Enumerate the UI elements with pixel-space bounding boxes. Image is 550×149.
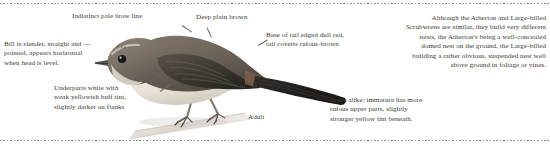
field-guide-plate: Indistinct pale brow line Bill is slende… [0, 0, 550, 149]
top-dotted-rule [0, 3, 550, 4]
annotation-underparts: Underparts white with weak yellowish buf… [54, 84, 170, 112]
annotation-nest-comparison: Although the Atherton and Large-billed S… [386, 14, 546, 70]
annotation-brow: Indistinct pale brow line [72, 12, 192, 21]
annotation-back: Deep plain brown [196, 13, 286, 22]
annotation-tail: Base of tail edged dull red, tail covert… [266, 31, 384, 50]
label-adult: Adult [248, 113, 288, 122]
annotation-sexes: Sexes alike; immature has more rufous up… [330, 96, 480, 124]
annotation-bill: Bill is slender, straight and — pointed,… [4, 40, 132, 68]
